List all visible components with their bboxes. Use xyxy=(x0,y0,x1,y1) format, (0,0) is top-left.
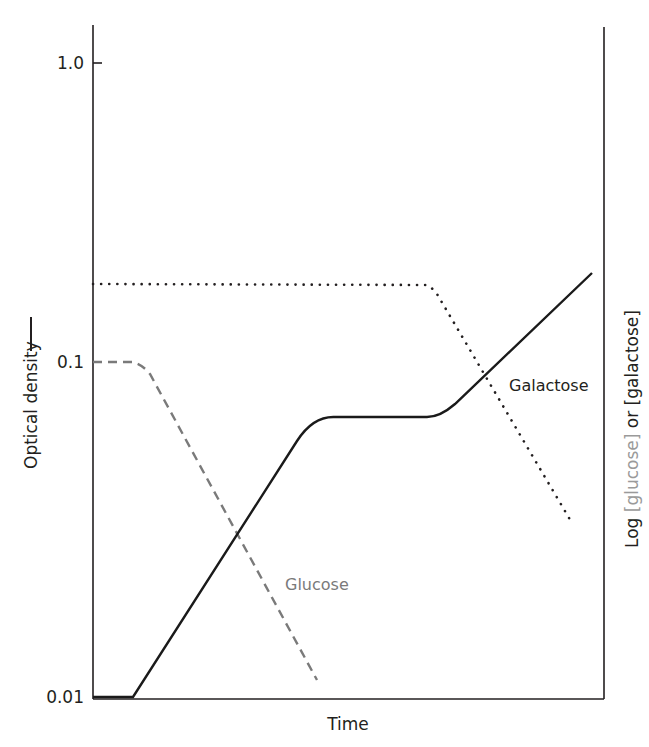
x-axis-label: Time xyxy=(326,714,369,734)
glucose-dashed-line xyxy=(93,362,317,680)
optical-density-solid-line xyxy=(93,273,592,697)
y2-label-glucose: [glucose] xyxy=(622,434,642,513)
chart-canvas: 1.0 0.1 0.01 Time Optical density Log [g… xyxy=(0,0,649,747)
y2-axis-label: Log [glucose] or [galactose] xyxy=(622,310,642,548)
axes xyxy=(93,25,604,699)
y-axis-label-group: Optical density xyxy=(21,317,41,469)
glucose-label: Glucose xyxy=(285,575,349,594)
ytick-label-2: 0.1 xyxy=(57,352,84,372)
y-axis-label: Optical density xyxy=(21,341,41,469)
y2-label-middle: or xyxy=(622,405,642,433)
y2-label-galactose: [galactose] xyxy=(622,310,642,405)
y2-label-prefix: Log xyxy=(622,512,642,548)
ytick-label-1: 1.0 xyxy=(57,53,84,73)
galactose-label: Galactose xyxy=(509,376,589,395)
ytick-label-3: 0.01 xyxy=(46,687,84,707)
